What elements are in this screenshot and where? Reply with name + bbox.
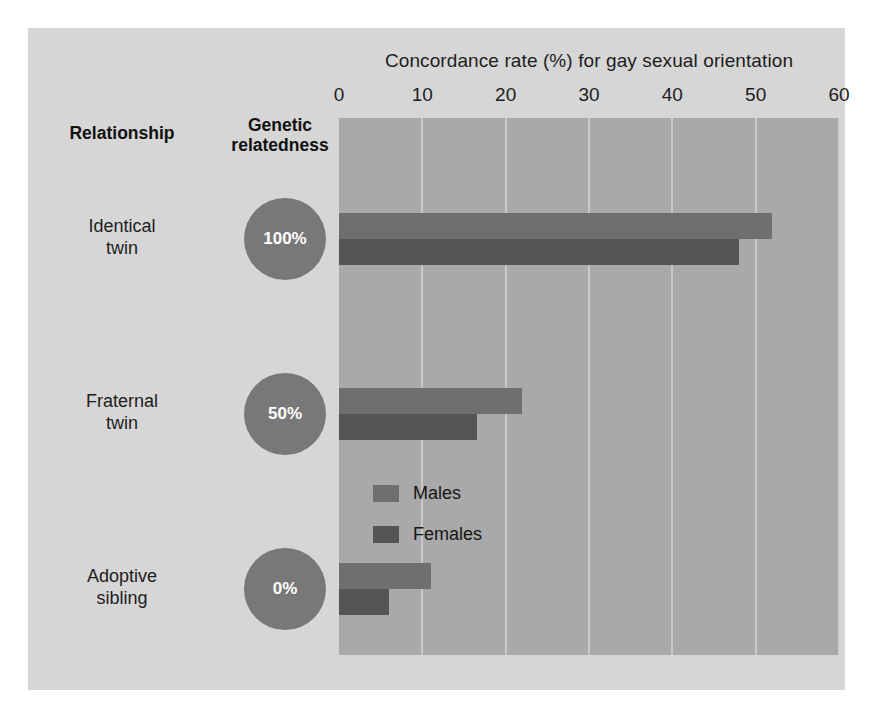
- bar-females-adoptive-sibling: [339, 589, 389, 615]
- relatedness-circle-0pct: 0%: [244, 548, 326, 630]
- x-tick-label-50: 50: [745, 84, 766, 106]
- x-tick-label-30: 30: [578, 84, 599, 106]
- x-axis-tick-labels: 0102030405060: [339, 84, 839, 108]
- row-label-line2: sibling: [46, 588, 198, 610]
- gridline-60: [838, 118, 839, 655]
- row-label-identical-twin: Identicaltwin: [46, 216, 198, 259]
- legend-item-females: Females: [373, 524, 482, 545]
- gridline-30: [588, 118, 590, 655]
- bar-females-fraternal-twin: [339, 414, 477, 440]
- bar-males-fraternal-twin: [339, 388, 522, 414]
- column-header-genetic-line1: Genetic: [210, 116, 350, 136]
- row-label-line1: Adoptive: [46, 566, 198, 588]
- column-header-genetic-relatedness: Genetic relatedness: [210, 116, 350, 156]
- plot-area: [339, 118, 839, 655]
- relatedness-circle-100pct: 100%: [244, 198, 326, 280]
- x-tick-label-0: 0: [334, 84, 345, 106]
- row-label-line1: Fraternal: [46, 391, 198, 413]
- bar-females-identical-twin: [339, 239, 739, 265]
- row-label-fraternal-twin: Fraternaltwin: [46, 391, 198, 434]
- row-label-line1: Identical: [46, 216, 198, 238]
- bar-males-identical-twin: [339, 213, 772, 239]
- x-tick-label-60: 60: [828, 84, 849, 106]
- gridline-50: [755, 118, 757, 655]
- legend-swatch-males: [373, 485, 399, 502]
- row-label-line2: twin: [46, 413, 198, 435]
- legend-label-males: Males: [413, 483, 461, 504]
- chart-figure: Concordance rate (%) for gay sexual orie…: [28, 28, 845, 690]
- bar-males-adoptive-sibling: [339, 563, 431, 589]
- chart-title: Concordance rate (%) for gay sexual orie…: [339, 50, 839, 72]
- column-header-relationship: Relationship: [46, 124, 198, 144]
- gridline-20: [505, 118, 507, 655]
- chart-legend: MalesFemales: [373, 483, 482, 565]
- x-tick-label-40: 40: [662, 84, 683, 106]
- legend-label-females: Females: [413, 524, 482, 545]
- legend-swatch-females: [373, 526, 399, 543]
- row-label-adoptive-sibling: Adoptivesibling: [46, 566, 198, 609]
- x-tick-label-20: 20: [495, 84, 516, 106]
- legend-item-males: Males: [373, 483, 482, 504]
- gridline-40: [671, 118, 673, 655]
- relatedness-circle-50pct: 50%: [244, 373, 326, 455]
- x-tick-label-10: 10: [412, 84, 433, 106]
- column-header-genetic-line2: relatedness: [210, 136, 350, 156]
- row-label-line2: twin: [46, 238, 198, 260]
